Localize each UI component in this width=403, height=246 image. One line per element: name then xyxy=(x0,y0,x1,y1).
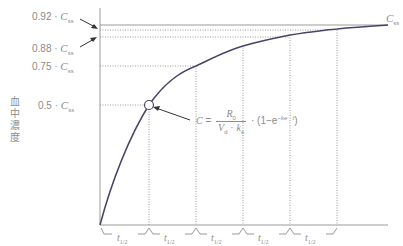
formula-tail: · (1−e xyxy=(248,115,277,126)
half-life-sub: 1/2 xyxy=(214,239,222,245)
half-life-label-4: t1/2 xyxy=(258,232,268,245)
arrow-to-092 xyxy=(80,19,98,29)
label-050-value: 0.5 · xyxy=(38,100,61,111)
label-075-value: 0.75 · xyxy=(32,61,60,72)
half-life-marker xyxy=(145,101,154,110)
half-life-label-1: t1/2 xyxy=(117,232,127,245)
half-life-label-5: t1/2 xyxy=(305,232,315,245)
arrow-to-marker xyxy=(153,106,190,120)
half-life-sub: 1/2 xyxy=(308,239,316,245)
label-092-css: 0.92 · Css xyxy=(32,10,74,24)
y-title-char: 度 xyxy=(10,132,22,144)
label-050-sub: ss xyxy=(68,107,74,113)
half-life-sub: 1/2 xyxy=(261,239,269,245)
label-088-value: 0.88 · xyxy=(32,43,60,54)
half-life-label-3: t1/2 xyxy=(211,232,221,245)
formula-equals: = xyxy=(205,115,211,126)
label-css-sub: ss xyxy=(393,20,399,26)
label-088-css: 0.88 · Css xyxy=(32,42,74,56)
half-life-sub: 1/2 xyxy=(167,239,175,245)
formula-fraction: R0 Vd · ke xyxy=(216,108,246,135)
y-title-char: 血 xyxy=(10,96,22,108)
half-life-label-2: t1/2 xyxy=(164,232,174,245)
y-axis-title: 血 中 濃 度 xyxy=(10,96,22,144)
label-092-sub: ss xyxy=(68,18,74,24)
label-075-css: 0.75 · Css xyxy=(32,60,74,74)
label-050-css: 0.5 · Css xyxy=(38,99,74,113)
y-title-char: 濃 xyxy=(10,120,22,132)
formula-exponent: −ke · t xyxy=(277,115,294,121)
formula-lhs: C xyxy=(196,115,203,126)
label-088-var: C xyxy=(60,42,67,54)
formula-annotation: C = R0 Vd · ke · (1−e−ke · t) xyxy=(196,108,298,135)
label-075-var: C xyxy=(60,60,67,72)
label-css: Css xyxy=(386,12,399,26)
formula-num-sub: 0 xyxy=(233,115,236,121)
formula-close: ) xyxy=(294,115,297,126)
label-092-value: 0.92 · xyxy=(32,11,60,22)
formula-den-b-sub: e xyxy=(241,129,244,135)
arrow-to-088 xyxy=(80,37,97,47)
formula-numerator: R0 xyxy=(216,108,246,122)
y-title-char: 中 xyxy=(10,108,22,120)
formula-denominator: Vd · ke xyxy=(216,122,246,135)
label-088-sub: ss xyxy=(68,50,74,56)
label-092-var: C xyxy=(60,10,67,22)
half-life-sub: 1/2 xyxy=(120,239,128,245)
label-075-sub: ss xyxy=(68,68,74,74)
